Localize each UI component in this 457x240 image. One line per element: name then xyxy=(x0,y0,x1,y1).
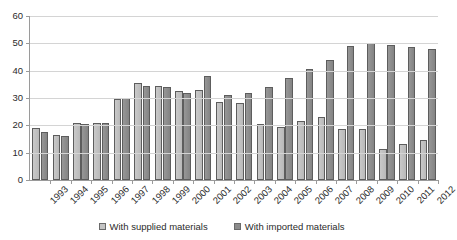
gridline xyxy=(30,125,438,126)
x-tick-label: 1993 xyxy=(48,184,70,206)
x-tick-label: 2004 xyxy=(272,184,294,206)
x-tick-label: 1999 xyxy=(170,184,192,206)
y-axis: 0102030405060 xyxy=(0,0,26,190)
x-tick-label: 2005 xyxy=(293,184,315,206)
plot-area xyxy=(29,16,438,181)
gridline xyxy=(30,16,438,17)
bar-imported-2002[interactable] xyxy=(224,95,232,180)
bar-imported-1994[interactable] xyxy=(61,136,69,180)
bar-imported-2005[interactable] xyxy=(285,78,293,181)
bar-imported-1998[interactable] xyxy=(143,86,151,180)
x-tick-label: 2011 xyxy=(415,184,436,205)
bar-imported-2007[interactable] xyxy=(326,60,334,180)
bar-supplied-2011[interactable] xyxy=(399,144,407,180)
bar-imported-2010[interactable] xyxy=(387,45,395,180)
x-tick-label: 1998 xyxy=(150,184,172,206)
y-tick-mark xyxy=(26,98,30,99)
gridline xyxy=(30,98,438,99)
bar-imported-1999[interactable] xyxy=(163,87,171,180)
x-tick-label: 2008 xyxy=(354,184,376,206)
bar-supplied-2007[interactable] xyxy=(318,117,326,180)
y-tick-mark xyxy=(26,43,30,44)
bar-imported-2004[interactable] xyxy=(265,87,273,180)
bar-imported-1997[interactable] xyxy=(122,98,130,180)
bar-supplied-2008[interactable] xyxy=(338,129,346,180)
y-tick-label: 60 xyxy=(12,11,23,21)
gridline xyxy=(30,43,438,44)
bar-supplied-1996[interactable] xyxy=(93,123,101,180)
y-tick-mark xyxy=(26,16,30,17)
bar-supplied-1994[interactable] xyxy=(53,135,61,180)
bar-supplied-2002[interactable] xyxy=(216,102,224,180)
bar-supplied-1997[interactable] xyxy=(114,99,122,180)
x-tick-label: 1996 xyxy=(109,184,131,206)
bar-supplied-2012[interactable] xyxy=(420,140,428,180)
y-tick-label: 40 xyxy=(12,66,23,76)
y-tick-mark xyxy=(26,180,30,181)
legend-label: With imported materials xyxy=(245,222,345,232)
bar-imported-2011[interactable] xyxy=(408,47,416,180)
bar-imported-2008[interactable] xyxy=(347,46,355,180)
legend-label: With supplied materials xyxy=(110,222,208,232)
y-tick-mark xyxy=(26,153,30,154)
bar-supplied-2009[interactable] xyxy=(359,129,367,180)
x-tick-label: 2003 xyxy=(252,184,274,206)
bar-imported-2003[interactable] xyxy=(245,93,253,180)
chart-legend: With supplied materialsWith imported mat… xyxy=(0,222,443,232)
legend-item-imported[interactable]: With imported materials xyxy=(234,222,345,232)
legend-swatch-icon xyxy=(234,223,241,230)
x-tick-label: 2010 xyxy=(395,184,417,206)
bar-imported-2009[interactable] xyxy=(367,43,375,180)
x-tick-label: 2009 xyxy=(374,184,396,206)
gridline xyxy=(30,71,438,72)
x-tick-label: 1994 xyxy=(68,184,90,206)
legend-swatch-icon xyxy=(99,223,106,230)
y-tick-label: 30 xyxy=(12,93,23,103)
x-tick-label: 1995 xyxy=(89,184,111,206)
x-tick-label: 2000 xyxy=(191,184,213,206)
x-axis: 1993199419951996199719981999200020012002… xyxy=(29,184,437,220)
bar-supplied-2006[interactable] xyxy=(297,121,305,180)
bar-imported-1993[interactable] xyxy=(41,132,49,180)
x-tick-label: 2006 xyxy=(313,184,335,206)
y-tick-label: 10 xyxy=(12,148,23,158)
y-tick-label: 20 xyxy=(12,121,23,131)
bar-imported-2000[interactable] xyxy=(183,93,191,180)
bar-supplied-1995[interactable] xyxy=(73,123,81,180)
bar-imported-1996[interactable] xyxy=(102,123,110,180)
x-tick-label: 2001 xyxy=(211,184,233,206)
y-tick-mark xyxy=(26,71,30,72)
bar-supplied-1999[interactable] xyxy=(155,86,163,180)
x-tick-mark xyxy=(438,180,439,184)
x-tick-label: 2007 xyxy=(333,184,355,206)
bar-supplied-2001[interactable] xyxy=(195,90,203,180)
y-tick-mark xyxy=(26,125,30,126)
bar-imported-2001[interactable] xyxy=(204,76,212,180)
y-tick-label: 50 xyxy=(12,39,23,49)
bar-supplied-1993[interactable] xyxy=(32,128,40,180)
plot-wrapper: 0102030405060 xyxy=(0,0,443,190)
bar-supplied-2003[interactable] xyxy=(236,103,244,180)
y-tick-label: 0 xyxy=(18,175,23,185)
legend-item-supplied[interactable]: With supplied materials xyxy=(99,222,208,232)
x-tick-label: 1997 xyxy=(129,184,151,206)
x-tick-label: 2002 xyxy=(231,184,253,206)
bar-imported-2012[interactable] xyxy=(428,49,436,180)
bar-supplied-2000[interactable] xyxy=(175,91,183,180)
gridline xyxy=(30,153,438,154)
